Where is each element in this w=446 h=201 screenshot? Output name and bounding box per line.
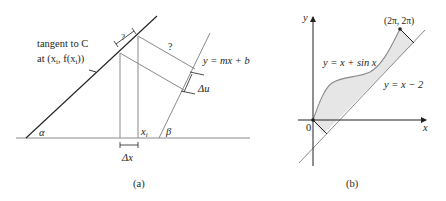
caption-b: (b): [346, 178, 359, 190]
y-axis-label: y: [302, 12, 308, 23]
origin-point: [311, 118, 315, 122]
figure: tangent to C at (xi, f(xi)) y = mx + b ?…: [0, 0, 446, 201]
origin-label: 0: [306, 122, 311, 133]
unknown-tick-right: [132, 28, 136, 34]
caption-a: (a): [133, 178, 145, 190]
tangent-label-line2: at (xi, f(xi)): [37, 53, 85, 66]
perpendicular-lower: [120, 53, 184, 90]
line-y-x-minus-2: [299, 30, 425, 163]
alpha-label: α: [39, 127, 45, 138]
beta-label: β: [165, 126, 172, 137]
curve-label: y = x + sin x: [322, 57, 377, 68]
panel-b: y x 0 (2π, 2π) y = x + sin x y = x − 2 (…: [298, 12, 428, 190]
endpoint-label: (2π, 2π): [384, 16, 414, 27]
unknown-bracket: [116, 31, 134, 44]
x-axis-label: x: [422, 122, 428, 133]
x-i-label: xi: [140, 126, 148, 139]
line-label-b: y = x − 2: [383, 79, 424, 90]
panel-a: tangent to C at (xi, f(xi)) y = mx + b ?…: [16, 16, 250, 190]
endpoint-point: [398, 27, 402, 31]
tangent-pointer: [89, 70, 96, 72]
unknown-top-label: ?: [121, 32, 125, 42]
unknown-tick-left: [114, 41, 118, 47]
tangent-label-line1: tangent to C: [37, 38, 88, 49]
delta-x-label: Δx: [121, 152, 133, 163]
delta-u-tick-bottom: [181, 91, 195, 94]
perpendicular-upper: [138, 36, 195, 69]
line-label: y = mx + b: [202, 55, 250, 66]
unknown-perp-label: ?: [168, 41, 173, 52]
tangent-line: [26, 16, 157, 138]
delta-u-label: Δu: [197, 83, 209, 94]
